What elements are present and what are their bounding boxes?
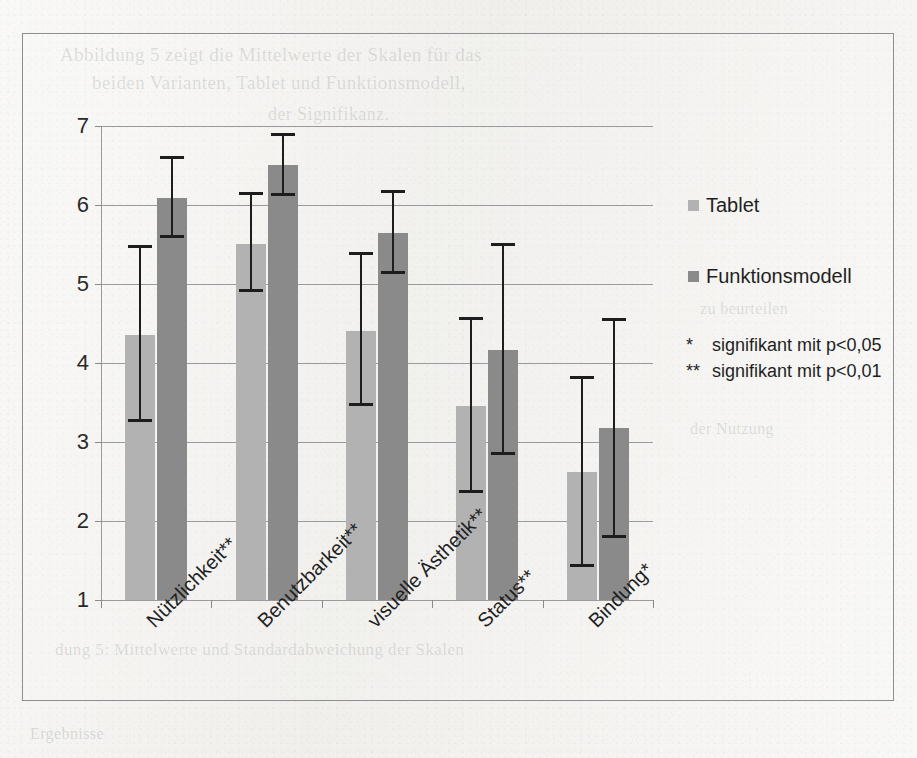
y-tick-label: 6 — [77, 192, 89, 218]
error-bar-cap-lower — [459, 490, 483, 493]
x-tick — [653, 600, 654, 608]
error-bar-cap-lower — [570, 564, 594, 567]
error-bar-cap-lower — [381, 271, 405, 274]
y-tick-label: 7 — [77, 113, 89, 139]
y-tick-label: 5 — [77, 271, 89, 297]
y-tick-label: 3 — [77, 429, 89, 455]
error-bar-stem — [360, 252, 362, 407]
error-bar-cap-upper — [160, 156, 184, 159]
significance-text: signifikant mit p<0,01 — [712, 358, 882, 384]
plot-area: 1234567 — [101, 126, 653, 600]
x-tick — [211, 600, 212, 608]
significance-mark: ** — [686, 358, 712, 384]
legend-label: Funktionsmodell — [706, 265, 852, 288]
x-tick — [322, 600, 323, 608]
error-bar-cap-lower — [128, 419, 152, 422]
bleed-through-text: Ergebnisse — [30, 725, 104, 743]
gridline — [101, 126, 653, 127]
y-tick — [95, 205, 102, 206]
legend-item-funktionsmodell: Funktionsmodell — [688, 265, 903, 288]
error-bar-cap-lower — [602, 535, 626, 538]
error-bar-cap-upper — [381, 190, 405, 193]
significance-mark: * — [686, 332, 712, 358]
error-bar-cap-lower — [491, 452, 515, 455]
legend-swatch-icon — [688, 271, 699, 282]
error-bar-stem — [470, 317, 472, 493]
error-bar-stem — [139, 245, 141, 422]
error-bar-stem — [581, 376, 583, 566]
y-tick — [95, 442, 102, 443]
legend-label: Tablet — [706, 194, 759, 217]
y-tick — [95, 126, 102, 127]
significance-text: signifikant mit p<0,05 — [712, 332, 882, 358]
y-tick — [95, 521, 102, 522]
bar — [268, 165, 298, 600]
error-bar-stem — [502, 243, 504, 456]
error-bar-cap-upper — [570, 376, 594, 379]
legend-swatch-icon — [688, 200, 699, 211]
legend: Tablet Funktionsmodell — [688, 194, 903, 336]
bar — [157, 198, 187, 600]
significance-note: * signifikant mit p<0,05 — [686, 332, 882, 358]
error-bar-cap-lower — [160, 235, 184, 238]
error-bar-stem — [171, 156, 173, 238]
x-tick — [543, 600, 544, 608]
error-bar-cap-upper — [491, 243, 515, 246]
bar — [378, 233, 408, 600]
error-bar-cap-lower — [349, 403, 373, 406]
y-tick — [95, 284, 102, 285]
x-tick — [101, 600, 102, 608]
error-bar-cap-upper — [349, 252, 373, 255]
legend-item-tablet: Tablet — [688, 194, 903, 217]
error-bar-cap-lower — [271, 193, 295, 196]
error-bar-cap-upper — [239, 192, 263, 195]
error-bar-stem — [392, 190, 394, 274]
error-bar-stem — [613, 318, 615, 538]
y-tick-label: 1 — [77, 587, 89, 613]
chart-frame: 1234567 Nützlichkeit**Benutzbarkeit**vis… — [22, 33, 894, 701]
y-tick-label: 4 — [77, 350, 89, 376]
error-bar-cap-upper — [459, 317, 483, 320]
x-tick — [432, 600, 433, 608]
error-bar-cap-lower — [239, 289, 263, 292]
y-tick-label: 2 — [77, 508, 89, 534]
scanned-page: Abbildung 5 zeigt die Mittelwerte der Sk… — [0, 0, 917, 758]
y-tick — [95, 363, 102, 364]
error-bar-cap-upper — [128, 245, 152, 248]
error-bar-cap-upper — [271, 133, 295, 136]
error-bar-stem — [282, 133, 284, 195]
significance-notes: * signifikant mit p<0,05 ** signifikant … — [686, 332, 882, 384]
significance-note: ** signifikant mit p<0,01 — [686, 358, 882, 384]
error-bar-stem — [250, 192, 252, 292]
error-bar-cap-upper — [602, 318, 626, 321]
